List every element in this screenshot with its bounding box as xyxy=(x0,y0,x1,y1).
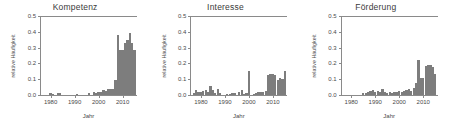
y-axis-tick-label: 0.4 xyxy=(328,29,336,35)
y-axis-tick-label: 0.5 xyxy=(178,13,186,19)
x-axis-tick-label: 1990 xyxy=(218,99,231,105)
plot-area: 0.00.10.20.30.40.51980199020002010 xyxy=(190,16,287,96)
bar xyxy=(219,93,221,95)
y-axis-tick xyxy=(38,32,41,33)
x-axis-tick xyxy=(201,95,202,98)
y-axis-tick xyxy=(38,16,41,17)
bar xyxy=(133,50,135,95)
x-axis-tick xyxy=(225,95,226,98)
y-axis-tick-label: 0.3 xyxy=(178,45,186,51)
y-axis-tick-label: 0.2 xyxy=(328,60,336,66)
x-axis-tick-label: 2010 xyxy=(417,99,430,105)
y-axis-tick xyxy=(188,79,191,80)
y-axis-tick-label: 0.0 xyxy=(28,92,36,98)
chart-panel-interesse: Interesse relative Häufigkeit 0.00.10.20… xyxy=(150,0,300,133)
x-axis-tick xyxy=(351,95,352,98)
y-axis-label: relative Häufigkeit xyxy=(309,16,319,96)
plot-area: 0.00.10.20.30.40.51980199020002010 xyxy=(40,16,137,96)
y-axis-tick-label: 0.1 xyxy=(28,76,36,82)
y-axis-tick xyxy=(188,16,191,17)
x-axis-tick-label: 1990 xyxy=(68,99,81,105)
bar xyxy=(233,93,235,95)
y-axis-label: relative Häufigkeit xyxy=(158,16,168,96)
figure-panels: Kompetenz relative Häufigkeit 0.00.10.20… xyxy=(0,0,451,133)
y-axis-tick-label: 0.2 xyxy=(178,60,186,66)
y-axis-tick-label: 0.4 xyxy=(178,29,186,35)
y-axis-tick-label: 0.3 xyxy=(328,45,336,51)
y-axis-tick xyxy=(339,48,342,49)
x-axis-tick xyxy=(249,95,250,98)
y-axis-tick-label: 0.5 xyxy=(28,13,36,19)
y-axis-tick-label: 0.3 xyxy=(28,45,36,51)
y-axis-tick xyxy=(339,63,342,64)
x-axis-tick-label: 2010 xyxy=(116,99,129,105)
y-axis-label-text: relative Häufigkeit xyxy=(160,34,166,77)
x-axis-tick-label: 1980 xyxy=(345,99,358,105)
bar xyxy=(434,74,436,95)
x-axis-tick xyxy=(51,95,52,98)
bar-series xyxy=(41,16,137,95)
chart-title: Förderung xyxy=(301,2,451,12)
y-axis-tick xyxy=(188,63,191,64)
x-axis-tick-label: 2000 xyxy=(92,99,105,105)
chart-panel-foerderung: Förderung relative Häufigkeit 0.00.10.20… xyxy=(301,0,451,133)
x-axis-tick xyxy=(399,95,400,98)
y-axis-tick-label: 0.1 xyxy=(328,76,336,82)
y-axis-label-text: relative Häufigkeit xyxy=(311,34,317,77)
bar xyxy=(59,93,61,95)
x-axis-tick-label: 1990 xyxy=(369,99,382,105)
x-axis-tick xyxy=(75,95,76,98)
chart-title: Kompetenz xyxy=(0,2,150,12)
y-axis-tick xyxy=(38,48,41,49)
y-axis-tick-label: 0.2 xyxy=(28,60,36,66)
x-axis-tick-label: 2000 xyxy=(242,99,255,105)
y-axis-tick-label: 0.4 xyxy=(28,29,36,35)
x-axis-tick xyxy=(375,95,376,98)
chart-panel-kompetenz: Kompetenz relative Häufigkeit 0.00.10.20… xyxy=(0,0,150,133)
bar-series xyxy=(342,16,438,95)
x-axis-tick xyxy=(423,95,424,98)
x-axis-tick xyxy=(123,95,124,98)
x-axis-tick xyxy=(99,95,100,98)
y-axis-tick xyxy=(339,16,342,17)
x-axis-tick-label: 1980 xyxy=(194,99,207,105)
bar xyxy=(248,71,250,95)
bar xyxy=(76,94,78,95)
bar xyxy=(284,71,286,95)
y-axis-tick xyxy=(339,32,342,33)
y-axis-tick-label: 0.1 xyxy=(178,76,186,82)
y-axis-tick-label: 0.5 xyxy=(328,13,336,19)
y-axis-tick xyxy=(188,48,191,49)
x-axis-tick-label: 2010 xyxy=(266,99,279,105)
y-axis-tick xyxy=(38,63,41,64)
x-axis-label: Jahr xyxy=(341,113,438,119)
bar xyxy=(52,94,54,95)
y-axis-tick-label: 0.0 xyxy=(178,92,186,98)
y-axis-tick-label: 0.0 xyxy=(328,92,336,98)
y-axis-label: relative Häufigkeit xyxy=(8,16,18,96)
x-axis-label: Jahr xyxy=(40,113,137,119)
y-axis-tick xyxy=(38,95,41,96)
x-axis-tick-label: 1980 xyxy=(44,99,57,105)
y-axis-tick xyxy=(188,95,191,96)
bar xyxy=(88,93,90,95)
y-axis-label-text: relative Häufigkeit xyxy=(10,34,16,77)
x-axis-tick xyxy=(273,95,274,98)
x-axis-label: Jahr xyxy=(190,113,287,119)
y-axis-tick xyxy=(339,79,342,80)
y-axis-tick xyxy=(188,32,191,33)
x-axis-tick-label: 2000 xyxy=(393,99,406,105)
y-axis-tick xyxy=(339,95,342,96)
chart-title: Interesse xyxy=(150,2,300,12)
y-axis-tick xyxy=(38,79,41,80)
plot-area: 0.00.10.20.30.40.51980199020002010 xyxy=(341,16,438,96)
bar-series xyxy=(191,16,287,95)
